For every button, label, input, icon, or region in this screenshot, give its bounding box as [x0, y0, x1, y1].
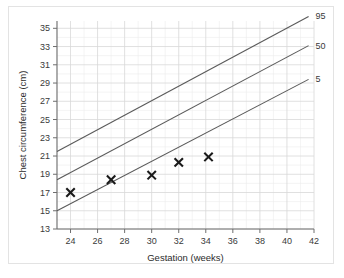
y-tick-label: 17 [40, 188, 50, 198]
growth-chart-svg: 24262830323436384042 1315171921232527293… [9, 7, 335, 265]
x-tick-label: 24 [66, 236, 76, 246]
y-tick-label: 13 [40, 224, 50, 234]
y-tick-label: 35 [40, 23, 50, 33]
percentile-line-labels: 95505 [316, 11, 326, 84]
percentile-label-50: 50 [316, 41, 326, 51]
data-point-markers [66, 153, 212, 197]
minor-gridlines [57, 21, 314, 229]
y-tick-label: 25 [40, 115, 50, 125]
percentile-line-5 [57, 79, 309, 210]
tick-marks [53, 28, 314, 233]
y-tick-label: 21 [40, 151, 50, 161]
y-tick-label: 23 [40, 133, 50, 143]
y-tick-label: 15 [40, 206, 50, 216]
x-tick-label: 34 [201, 236, 211, 246]
y-tick-label: 31 [40, 60, 50, 70]
y-tick-label: 33 [40, 42, 50, 52]
chart-plot-area: 24262830323436384042 1315171921232527293… [9, 7, 335, 265]
percentile-line-95 [57, 16, 309, 151]
x-tick-label: 38 [255, 236, 265, 246]
x-tick-label: 26 [93, 236, 103, 246]
y-axis-title: Chest circumference (cm) [17, 71, 28, 180]
percentile-label-95: 95 [316, 11, 326, 21]
x-tick-label: 28 [120, 236, 130, 246]
x-tick-label: 42 [309, 236, 319, 246]
x-tick-labels: 24262830323436384042 [66, 236, 319, 246]
x-tick-label: 30 [147, 236, 157, 246]
x-axis-title: Gestation (weeks) [147, 252, 224, 263]
chart-card: 24262830323436384042 1315171921232527293… [8, 6, 334, 264]
axes [57, 21, 314, 229]
y-tick-label: 29 [40, 78, 50, 88]
x-tick-label: 36 [228, 236, 238, 246]
percentile-label-5: 5 [316, 74, 321, 84]
x-tick-label: 32 [174, 236, 184, 246]
percentile-lines [57, 16, 309, 210]
y-tick-labels: 131517192123252729313335 [40, 23, 50, 234]
y-tick-label: 19 [40, 169, 50, 179]
y-tick-label: 27 [40, 96, 50, 106]
major-gridlines [57, 21, 314, 229]
x-tick-label: 40 [282, 236, 292, 246]
